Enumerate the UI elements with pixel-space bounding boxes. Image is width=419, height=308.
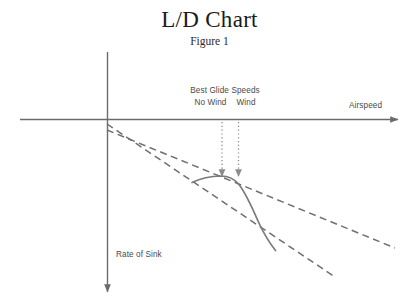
ld-chart-graphic xyxy=(0,0,419,308)
tangent-line-no-wind xyxy=(107,130,395,248)
chart-canvas: L/D Chart Figure 1 Airspeed Rate of Sink… xyxy=(0,0,419,308)
glide-polar-curve xyxy=(192,176,276,251)
y-axis-label: Rate of Sink xyxy=(116,250,162,259)
x-axis-label: Airspeed xyxy=(349,101,382,110)
